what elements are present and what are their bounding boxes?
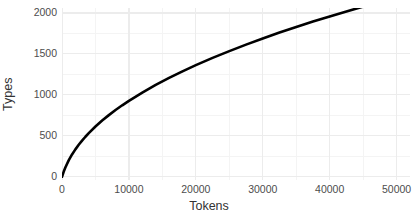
y-tick-label: 1500 (34, 48, 57, 59)
x-tick-label: 50000 (382, 184, 411, 195)
y-axis-title: Types (2, 64, 15, 124)
y-tick-label: 2000 (34, 7, 57, 18)
x-tick-label: 40000 (315, 184, 344, 195)
x-tick-label: 20000 (181, 184, 210, 195)
plot-panel (62, 8, 410, 180)
data-series-line (62, 8, 410, 180)
x-axis-title: Tokens (0, 200, 418, 213)
x-tick-label: 0 (59, 184, 65, 195)
x-tick-label: 10000 (114, 184, 143, 195)
y-tick-label: 500 (39, 130, 57, 141)
y-tick-label: 1000 (34, 89, 57, 100)
y-tick-label: 0 (51, 171, 57, 182)
x-tick-label: 30000 (248, 184, 277, 195)
chart-figure: 0500100015002000 Tokens Types 0100002000… (0, 0, 418, 223)
